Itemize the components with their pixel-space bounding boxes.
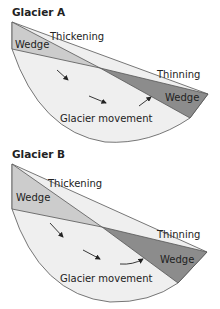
- glacier-a-left-wedge-label: Wedge: [15, 39, 49, 50]
- glacier-a-movement-label: Glacier movement: [60, 113, 153, 124]
- glacier-a-thickening-label: Thickening: [49, 31, 104, 42]
- glacier-b-left-wedge-label: Wedge: [16, 192, 50, 203]
- glacier-b-thickening-label: Thickening: [47, 178, 102, 189]
- glacier-a-title: Glacier A: [12, 6, 66, 18]
- glacier-a-thinning-label: Thinning: [156, 69, 200, 80]
- glacier-b-thinning-label: Thinning: [156, 229, 200, 240]
- glacier-diagram: Glacier A Thickening Wedge Thinning Wedg…: [0, 0, 220, 309]
- glacier-b-movement-label: Glacier movement: [60, 273, 153, 284]
- glacier-a-right-wedge-label: Wedge: [165, 92, 199, 103]
- glacier-b-right-wedge-label: Wedge: [160, 254, 194, 265]
- glacier-a: Glacier A Thickening Wedge Thinning Wedg…: [12, 6, 208, 142]
- glacier-b: Glacier B Thickening Wedge Thinning Wedg…: [12, 148, 207, 302]
- glacier-b-title: Glacier B: [12, 148, 65, 160]
